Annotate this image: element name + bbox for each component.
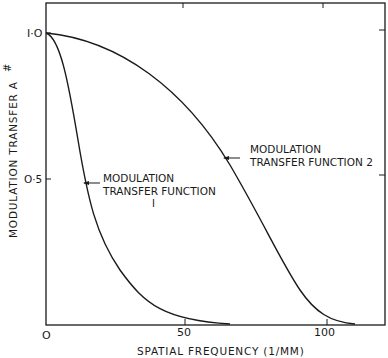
y-tick-label-05: O·5 — [24, 173, 42, 185]
x-axis-label: SPATIAL FREQUENCY (1/MM) — [137, 345, 305, 357]
x-tick-label-0: O — [42, 329, 51, 342]
annotation-2-line-1: MODULATION — [250, 143, 321, 155]
x-tick-label-50: 50 — [177, 326, 191, 339]
y-tick-label-1: I·O — [27, 27, 43, 40]
annotation-1-line-2: TRANSFER FUNCTION — [102, 185, 216, 197]
annotation-2-line-2: TRANSFER FUNCTION 2 — [249, 156, 373, 168]
y-axis-label-group: MODULATION TRANSFER A # — [2, 64, 19, 238]
annotation-1-line-1: MODULATION — [103, 172, 174, 184]
y-axis-label-superscript: # — [2, 64, 13, 72]
mtf-chart: MODULATION TRANSFER FUNCTION I MODULATIO… — [0, 0, 388, 358]
mtf-curve-2 — [46, 33, 355, 324]
y-axis-label: MODULATION TRANSFER A — [7, 81, 19, 238]
x-tick-label-100: 100 — [314, 326, 335, 339]
annotation-1-line-3: I — [152, 198, 155, 209]
